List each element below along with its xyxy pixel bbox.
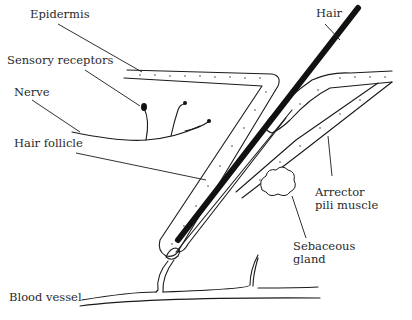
label-nerve: Nerve	[14, 86, 50, 99]
leader-arrector	[328, 136, 332, 176]
sensory-receptor-small-2	[207, 119, 211, 123]
epidermis-cells	[139, 74, 385, 244]
label-epidermis: Epidermis	[30, 8, 90, 21]
diagram-drawing	[0, 0, 412, 320]
blood-vessel	[82, 255, 318, 300]
label-hair: Hair	[316, 7, 342, 20]
leader-sensory	[85, 70, 140, 106]
sensory-receptor-small-1	[183, 101, 187, 105]
label-sebaceous-line2: gland	[293, 253, 326, 266]
blood-vessel-lower	[80, 298, 320, 306]
nerve-branch-3	[185, 122, 208, 131]
label-hair-follicle: Hair follicle	[14, 137, 83, 150]
sebaceous-gland	[261, 167, 296, 196]
leader-sebaceous	[292, 196, 306, 238]
label-sensory-receptors: Sensory receptors	[7, 54, 113, 67]
leader-nerve	[32, 100, 80, 132]
epidermis-layer-left	[124, 70, 279, 256]
capillary	[156, 260, 174, 292]
nerve	[72, 126, 200, 140]
leader-hair-follicle	[76, 153, 206, 180]
label-arrector-line2: pili muscle	[315, 199, 378, 212]
nerve-branch-1	[144, 108, 148, 140]
arrector-pili-muscle	[236, 82, 392, 198]
sensory-receptor-large	[141, 103, 147, 111]
label-blood-vessel: Blood vessel	[9, 291, 82, 304]
hair-follicle-diagram: Epidermis Sensory receptors Nerve Hair f…	[0, 0, 412, 320]
nerve-branch-2	[171, 104, 185, 136]
